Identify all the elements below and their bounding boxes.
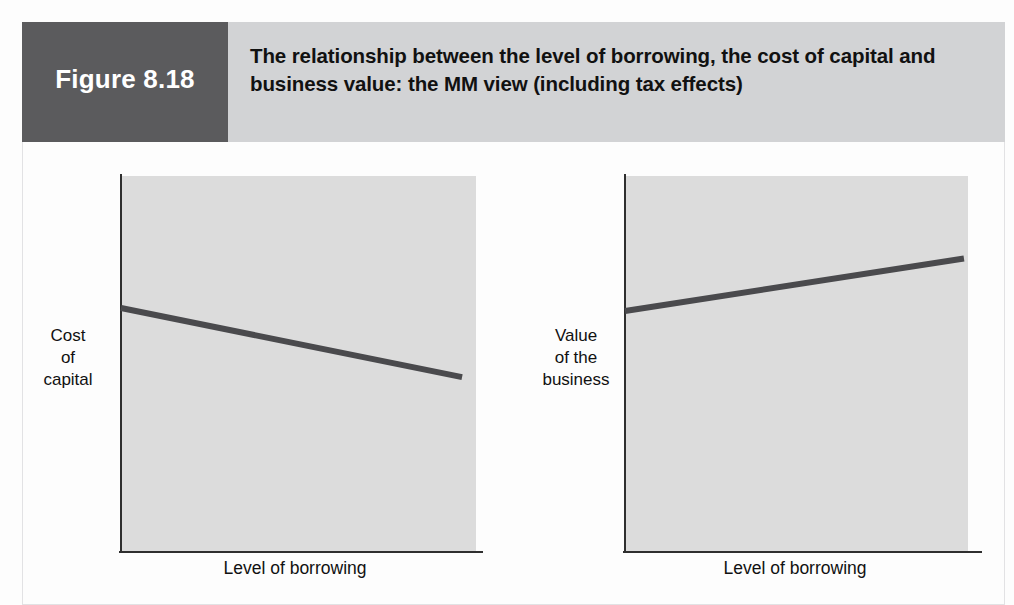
x-axis-label-cost-of-capital: Level of borrowing [180, 558, 410, 579]
figure-number-label: Figure 8.18 [22, 64, 228, 95]
y-axis-label-value-of-business: Value of the business [520, 325, 632, 391]
figure-number-box: Figure 8.18 [22, 22, 228, 142]
plot-area-cost-of-capital [122, 176, 476, 551]
figure-header: Figure 8.18 The relationship between the… [22, 22, 1005, 142]
plot-area-value-of-business [626, 176, 968, 551]
y-axis-cost-of-capital [120, 174, 122, 553]
y-axis-label-cost-of-capital: Cost of capital [18, 325, 118, 391]
x-axis-value-of-business [623, 551, 982, 553]
figure-frame-right-rule [1004, 142, 1005, 605]
figure-title: The relationship between the level of bo… [250, 42, 960, 98]
figure-page: Figure 8.18 The relationship between the… [0, 0, 1014, 605]
x-axis-label-value-of-business: Level of borrowing [680, 558, 910, 579]
x-axis-cost-of-capital [119, 551, 483, 553]
